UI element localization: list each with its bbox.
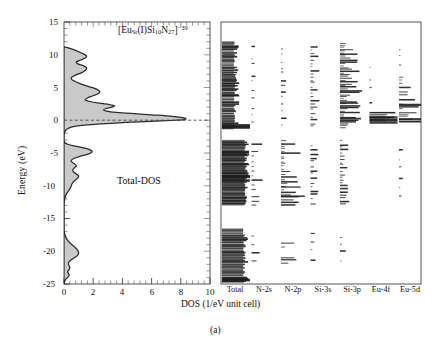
dos-stick xyxy=(370,118,398,121)
dos-stick xyxy=(340,50,345,51)
dos-stick xyxy=(252,151,259,152)
dos-stick xyxy=(252,201,260,202)
dos-stick xyxy=(281,163,285,164)
dos-stick xyxy=(340,177,343,178)
dos-stick xyxy=(281,48,283,49)
dos-stick xyxy=(281,54,282,55)
dos-stick xyxy=(370,87,372,88)
dos-stick xyxy=(311,49,313,50)
dos-stick xyxy=(340,71,359,73)
dos-stick xyxy=(222,238,248,240)
dos-stick xyxy=(281,62,282,63)
dos-stick xyxy=(399,55,400,56)
dos-stick xyxy=(222,98,234,100)
dos-stick xyxy=(340,145,348,147)
dos-stick xyxy=(222,237,247,239)
dos-stick xyxy=(222,73,234,75)
dos-stick xyxy=(252,184,255,185)
dos-stick xyxy=(340,86,356,88)
dos-stick xyxy=(340,73,344,74)
dos-stick xyxy=(340,171,343,172)
dos-stick xyxy=(252,97,255,98)
dos-stick xyxy=(222,94,238,96)
dos-stick xyxy=(311,74,314,75)
y-tick-label: -15 xyxy=(29,213,55,223)
dos-stick xyxy=(311,160,315,161)
dos-stick xyxy=(252,189,256,190)
dos-stick xyxy=(222,92,235,94)
dos-stick xyxy=(399,49,401,50)
dos-stick xyxy=(399,83,403,84)
dos-stick xyxy=(281,181,298,183)
dos-stick xyxy=(281,118,286,120)
dos-stick xyxy=(399,187,400,188)
dos-stick xyxy=(252,260,257,261)
dos-stick xyxy=(281,204,295,206)
dos-stick xyxy=(281,199,294,200)
dos-stick xyxy=(311,56,319,58)
dos-stick xyxy=(222,82,239,84)
dos-stick xyxy=(340,195,346,196)
total-dos-annotation: Total-DOS xyxy=(117,175,161,186)
dos-stick xyxy=(340,98,344,99)
dos-stick xyxy=(340,244,342,245)
x-axis-label: DOS (1/eV unit cell) xyxy=(181,299,260,309)
dos-stick xyxy=(340,116,344,117)
dos-stick xyxy=(222,235,245,237)
dos-stick xyxy=(281,143,295,145)
dos-stick xyxy=(340,65,344,66)
dos-stick xyxy=(252,205,257,206)
dos-stick xyxy=(222,75,235,77)
dos-stick xyxy=(311,191,319,193)
dos-stick xyxy=(311,183,315,184)
dos-stick xyxy=(399,116,408,117)
dos-stick xyxy=(311,154,319,156)
dos-stick xyxy=(311,70,320,72)
dos-stick xyxy=(340,63,345,64)
dos-stick xyxy=(281,195,305,197)
dos-stick xyxy=(281,156,284,157)
dos-stick xyxy=(222,101,234,103)
dos-stick xyxy=(222,72,237,74)
dos-stick xyxy=(311,198,313,199)
dos-stick xyxy=(340,149,348,151)
dos-stick xyxy=(340,45,345,46)
dos-stick xyxy=(399,79,402,80)
dos-stick xyxy=(340,96,347,97)
dos-stick xyxy=(252,121,254,122)
dos-stick xyxy=(222,171,248,173)
dos-stick xyxy=(399,196,402,197)
dos-stick xyxy=(311,66,313,67)
dos-stick xyxy=(281,169,284,170)
dos-stick xyxy=(340,74,350,75)
dos-stick xyxy=(222,69,238,71)
dos-stick xyxy=(222,250,243,252)
y-axis-label: Energy (eV) xyxy=(17,146,27,195)
dos-stick xyxy=(222,246,246,248)
dos-stick xyxy=(340,80,346,81)
dos-stick xyxy=(399,77,403,78)
dos-stick xyxy=(281,259,296,260)
y-tick-label: -5 xyxy=(32,148,58,158)
dos-stick xyxy=(311,93,313,94)
dos-stick xyxy=(340,60,358,62)
dos-stick xyxy=(370,121,398,123)
x-tick-label: 2 xyxy=(83,287,103,297)
x-tick-label: 0 xyxy=(54,287,74,297)
dos-stick xyxy=(399,112,417,113)
dos-stick xyxy=(222,202,245,204)
dos-stick xyxy=(399,91,408,92)
dos-stick xyxy=(311,172,314,173)
dos-stick xyxy=(222,163,248,165)
y-tick-label: 5 xyxy=(32,83,58,93)
dos-stick xyxy=(222,52,237,54)
dos-stick xyxy=(222,85,238,87)
dos-stick xyxy=(340,108,347,109)
dos-stick xyxy=(222,196,247,198)
dos-stick xyxy=(311,119,318,121)
dos-stick xyxy=(281,125,282,126)
dos-stick xyxy=(252,114,253,115)
dos-stick xyxy=(399,166,401,167)
dos-stick xyxy=(340,88,348,89)
dos-stick xyxy=(281,162,284,163)
